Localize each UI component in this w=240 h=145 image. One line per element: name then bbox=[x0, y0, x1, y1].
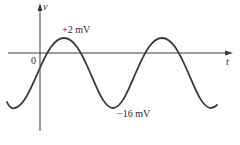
arrow-up-icon bbox=[38, 3, 43, 11]
trough-label: −16 mV bbox=[117, 108, 151, 119]
peak-label: +2 mV bbox=[62, 24, 91, 35]
waveform-curve bbox=[7, 38, 217, 108]
origin-label: 0 bbox=[31, 55, 36, 66]
arrow-right-icon bbox=[225, 51, 233, 56]
waveform-diagram: v t 0 +2 mV −16 mV bbox=[0, 0, 240, 145]
time-axis bbox=[8, 51, 233, 56]
time-axis-label: t bbox=[226, 56, 229, 67]
voltage-axis-label: v bbox=[43, 1, 48, 12]
